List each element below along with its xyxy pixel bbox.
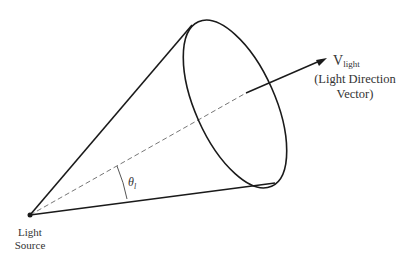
- light-source-label-line1: Light: [18, 226, 42, 238]
- vector-label: Vlight: [333, 53, 360, 69]
- cone-edge-top: [30, 25, 192, 215]
- light-direction-vector: [246, 60, 322, 93]
- spotlight-cone-diagram: Vlight (Light Direction Vector) θl Light…: [0, 0, 402, 261]
- light-axis-dashed: [30, 93, 246, 215]
- light-source-point: [28, 213, 33, 218]
- angle-arc: [117, 166, 127, 199]
- vector-desc-line2: Vector): [337, 87, 374, 101]
- vector-desc-line1: (Light Direction: [314, 72, 396, 86]
- arrowhead-icon: [316, 58, 327, 66]
- cone-edge-bottom: [30, 183, 275, 215]
- light-source-label-line2: Source: [15, 239, 46, 251]
- angle-label: θl: [128, 175, 137, 191]
